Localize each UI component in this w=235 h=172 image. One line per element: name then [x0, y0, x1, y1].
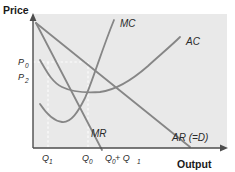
- x-tick-q1-base: Q: [42, 153, 49, 163]
- x-tick-sum-operator: + Q: [115, 153, 130, 163]
- curve-label-ar: AR (=D): [171, 132, 208, 143]
- y-tick-p0-subscript: 0: [25, 62, 29, 69]
- curve-label-ac: AC: [185, 36, 201, 47]
- x-tick-q0-subscript: 0: [89, 158, 93, 165]
- x-tick-sum-base: Q: [105, 153, 112, 163]
- economics-diagram: Price Output MC AC MR AR (=D) P 0 P 2 Q …: [0, 0, 235, 172]
- x-tick-sum-subscript2: 1: [137, 158, 141, 165]
- x-axis-title: Output: [177, 158, 212, 170]
- curve-label-mc: MC: [120, 18, 136, 29]
- y-tick-p2: P 2: [18, 72, 29, 84]
- plot-background: [33, 14, 227, 148]
- y-tick-p2-base: P: [18, 72, 24, 82]
- curve-label-mr: MR: [91, 128, 107, 139]
- y-axis-title: Price: [3, 4, 29, 16]
- x-tick-q0-plus-q1: Q 0 + Q 1: [105, 153, 141, 165]
- y-tick-p2-subscript: 2: [24, 77, 29, 84]
- x-tick-q1-subscript: 1: [49, 158, 53, 165]
- y-tick-p0-base: P: [18, 57, 24, 67]
- y-tick-p0: P 0: [18, 57, 29, 69]
- x-tick-q0: Q 0: [82, 153, 93, 165]
- x-tick-q1: Q 1: [42, 153, 53, 165]
- x-tick-q0-base: Q: [82, 153, 89, 163]
